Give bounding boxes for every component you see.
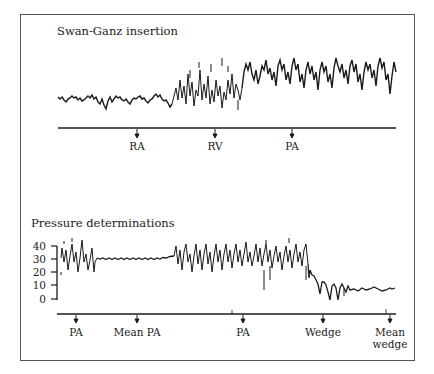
mean-pa-trace <box>97 256 174 260</box>
rv-trace <box>172 70 242 108</box>
pressure-y-axis <box>51 246 57 300</box>
pa-trace <box>242 58 396 94</box>
ra-trace <box>58 94 172 109</box>
wedge-trace <box>308 264 395 300</box>
pressure-axis <box>57 309 396 323</box>
waveform-canvas <box>0 0 434 374</box>
pressure-pa2-trace <box>174 242 308 272</box>
wedge-artifacts <box>306 266 344 296</box>
insertion-axis <box>58 128 396 138</box>
pressure-pa1-trace <box>61 240 97 272</box>
pressure-pa2-artifacts <box>264 238 289 290</box>
